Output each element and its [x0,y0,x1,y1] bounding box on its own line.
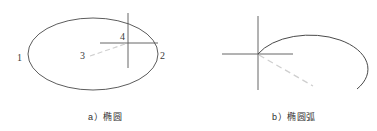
panel-a-dashed-radius [90,43,128,56]
diagram-canvas [0,0,377,131]
panel-a-group [28,13,158,90]
figure-root: 1 2 3 4 a）椭圆 b）椭圆弧 [0,0,377,131]
point-label-2: 2 [160,50,165,61]
point-label-4: 4 [120,31,125,42]
point-label-3: 3 [80,50,85,61]
caption-panel-a: a）椭圆 [88,110,122,123]
point-label-1: 1 [17,52,22,63]
caption-panel-b: b）椭圆弧 [272,110,316,123]
panel-b-dashed-radius [259,55,313,86]
elliptical-arc-outline [258,35,368,89]
ellipse-outline [28,18,158,90]
panel-b-group [222,16,368,90]
